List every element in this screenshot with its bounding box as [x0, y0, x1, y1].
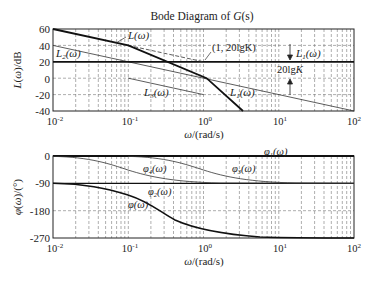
- magnitude-x-ticks: 10-2 10-1 100 101 102: [47, 115, 362, 127]
- label-phi4: φ4(ω): [143, 163, 167, 175]
- phase-y-label: φ(ω)/(°): [11, 179, 24, 215]
- bode-diagram: Bode Diagram of G(s): [0, 0, 372, 281]
- svg-text:0: 0: [45, 73, 51, 85]
- label-L2: L2(ω): [55, 47, 81, 61]
- svg-text:10-2: 10-2: [47, 115, 64, 127]
- magnitude-y-label: L(ω)/dB: [11, 51, 24, 89]
- phase-plot: φ1(ω) φ4(ω) φ3(ω) φ2(ω) φ(ω) 0 -90 -180 …: [11, 146, 362, 268]
- label-L3: L3(ω): [143, 86, 169, 100]
- svg-text:-180: -180: [30, 205, 51, 217]
- label-L1-top: L1(ω): [295, 47, 321, 61]
- svg-text:101: 101: [273, 242, 288, 254]
- phase-x-gridlines: [76, 156, 351, 238]
- svg-text:20: 20: [39, 56, 51, 68]
- label-phi: φ(ω): [128, 199, 149, 211]
- asymptote-line: [128, 45, 203, 61]
- svg-text:101: 101: [273, 115, 288, 127]
- chart-title: Bode Diagram of G(s): [150, 10, 253, 23]
- svg-text:10-2: 10-2: [47, 242, 64, 254]
- label-L: L(ω): [127, 29, 150, 42]
- label-phi2: φ2(ω): [148, 186, 172, 198]
- magnitude-plot: L(ω) (1, 20lgK) L1(ω) 20lgK L2(ω) L3(ω) …: [11, 23, 362, 141]
- label-phi1: φ1(ω): [264, 146, 288, 158]
- leader-point: [205, 52, 211, 60]
- svg-text:40: 40: [39, 40, 51, 52]
- phase-x-ticks: 10-2 10-1 100 101 102: [47, 242, 362, 254]
- svg-text:0: 0: [45, 150, 51, 162]
- svg-text:102: 102: [347, 115, 362, 127]
- magnitude-x-label: ω/(rad/s): [184, 128, 224, 141]
- svg-text:10-1: 10-1: [122, 115, 139, 127]
- magnitude-y-ticks: 60 40 20 0 -20 -40: [35, 23, 50, 117]
- label-L1-bottom: L1(ω): [229, 86, 255, 100]
- svg-text:10-1: 10-1: [122, 242, 139, 254]
- svg-text:102: 102: [347, 242, 362, 254]
- svg-text:60: 60: [39, 23, 51, 35]
- svg-text:-20: -20: [35, 89, 50, 101]
- svg-text:-90: -90: [35, 177, 50, 189]
- svg-text:100: 100: [198, 242, 213, 254]
- svg-text:100: 100: [198, 115, 213, 127]
- phase-y-ticks: 0 -90 -180 -270: [30, 150, 51, 244]
- label-point: (1, 20lgK): [212, 42, 256, 54]
- label-20lgK: 20lgK: [277, 64, 304, 75]
- label-phi3: φ3(ω): [232, 163, 256, 175]
- phase-x-label: ω/(rad/s): [184, 255, 224, 268]
